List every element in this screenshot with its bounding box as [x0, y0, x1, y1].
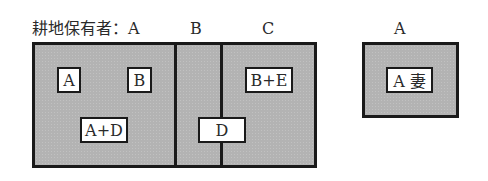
- tag-cultivator-a-wife: A 妻: [386, 67, 433, 93]
- plot-divider-a-b: [174, 42, 177, 168]
- tag-cultivator-d: D: [198, 117, 246, 143]
- tag-cultivator-b-plus-e: B+E: [245, 67, 293, 93]
- plot-divider-b-c: [220, 42, 223, 168]
- holder-label-b: B: [190, 20, 202, 38]
- tag-cultivator-a-plus-d: A+D: [80, 117, 128, 143]
- holder-label-c: C: [262, 20, 274, 38]
- holder-label-a: 耕地保有者：A: [32, 20, 140, 38]
- tag-cultivator-b: B: [127, 67, 152, 93]
- tag-cultivator-a: A: [57, 67, 81, 93]
- holder-label-right-a: A: [394, 20, 406, 38]
